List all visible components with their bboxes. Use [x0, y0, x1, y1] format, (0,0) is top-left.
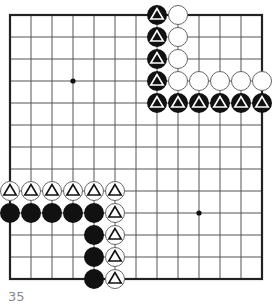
black-stone-triangle-marked	[189, 93, 209, 113]
white-stone-triangle-marked	[1, 182, 20, 201]
white-stone-triangle-marked	[106, 182, 125, 201]
star-point-icon	[70, 78, 75, 83]
black-stone-triangle-marked	[147, 5, 167, 25]
white-stone	[232, 72, 251, 91]
black-stone	[42, 203, 62, 223]
star-point-icon	[196, 210, 201, 215]
white-stone-triangle-marked	[43, 182, 62, 201]
black-stone-triangle-marked	[147, 93, 167, 113]
black-stone	[21, 203, 41, 223]
white-stone	[169, 72, 188, 91]
black-stone-triangle-marked	[147, 27, 167, 47]
white-stone	[169, 6, 188, 25]
black-stone-triangle-marked	[147, 71, 167, 91]
black-stone	[63, 203, 83, 223]
white-stone	[169, 28, 188, 47]
white-stone	[253, 72, 272, 91]
white-stone-triangle-marked	[106, 248, 125, 267]
white-stone	[169, 50, 188, 69]
black-stone-triangle-marked	[210, 93, 230, 113]
black-stone-triangle-marked	[231, 93, 251, 113]
black-stone-triangle-marked	[147, 49, 167, 69]
board-grid	[10, 15, 262, 279]
black-stone-triangle-marked	[252, 93, 272, 113]
white-stone-triangle-marked	[106, 204, 125, 223]
white-stone	[190, 72, 209, 91]
white-stone-triangle-marked	[106, 226, 125, 245]
black-stone	[84, 203, 104, 223]
white-stone-triangle-marked	[22, 182, 41, 201]
black-stone	[0, 203, 20, 223]
white-stone-triangle-marked	[64, 182, 83, 201]
black-stone	[84, 247, 104, 267]
white-stone	[211, 72, 230, 91]
diagram-caption: 35	[8, 290, 25, 303]
white-stone-triangle-marked	[85, 182, 104, 201]
black-stone	[84, 225, 104, 245]
black-stone-triangle-marked	[168, 93, 188, 113]
black-stone	[84, 269, 104, 289]
white-stone-triangle-marked	[106, 270, 125, 289]
